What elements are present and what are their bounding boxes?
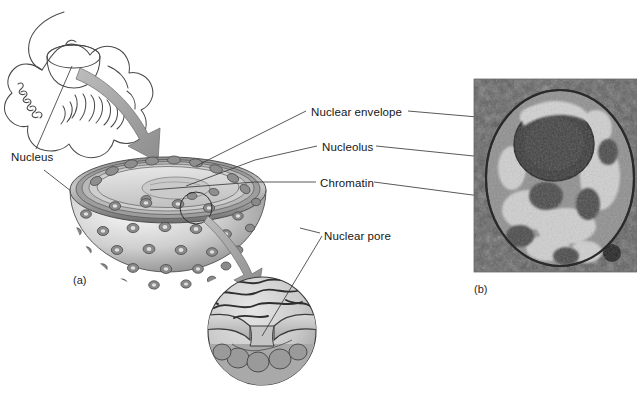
leader-nuclear-envelope-left xyxy=(196,111,306,166)
figure-canvas xyxy=(0,0,637,400)
label-nuclear-envelope: Nuclear envelope xyxy=(311,106,402,118)
label-chromatin: Chromatin xyxy=(320,177,374,189)
label-nuclear-pore: Nuclear pore xyxy=(324,230,391,242)
panel-label-a: (a) xyxy=(73,274,86,286)
leader-nuclear-pore-left xyxy=(300,228,320,233)
label-nucleolus: Nucleolus xyxy=(322,141,373,153)
whole-cell-outline xyxy=(5,12,153,158)
leader-nucleus-to-cell xyxy=(36,66,72,149)
leader-nucleolus-left xyxy=(255,146,317,160)
panel-label-b: (b) xyxy=(474,283,487,295)
label-nucleus: Nucleus xyxy=(11,151,53,163)
magnify-arrow-cell-to-nucleus xyxy=(76,68,160,162)
figure-nucleus-structure: Nucleus Nuclear envelope Nucleolus Chrom… xyxy=(0,0,637,400)
electron-micrograph xyxy=(474,79,637,272)
